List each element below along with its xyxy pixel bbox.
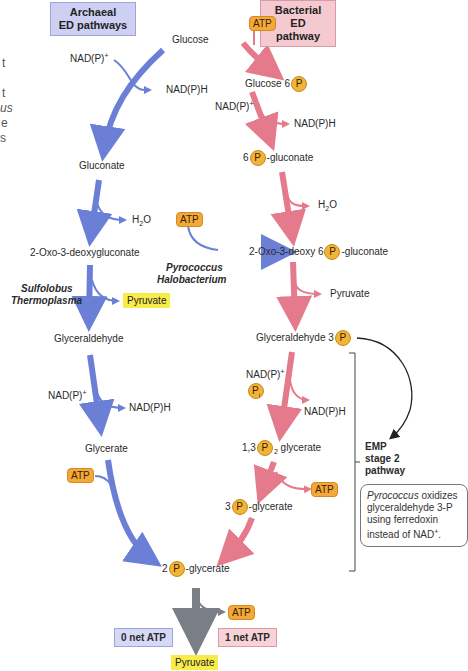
arrow-h2o-a (96, 200, 125, 220)
kdpg-label: 2-Oxo-3-deoxy 6P-gluconate (249, 244, 388, 260)
archaeal-header: Archaeal ED pathways (50, 2, 136, 36)
arrow-glycerate-2pg (108, 460, 152, 560)
glycerate-label: Glycerate (85, 443, 128, 454)
atp-in-bacterial: ATP (249, 16, 276, 31)
nadp-in-bacterial-1: NAD(P)+ (215, 100, 254, 112)
arrow-nadph-b2 (290, 380, 308, 400)
nadph-out-archaeal-2: NAD(P)H (129, 402, 171, 413)
phosphate-icon: P (324, 244, 340, 260)
atp-cross: ATP (176, 212, 203, 227)
arrow-gap-bpg (281, 352, 292, 430)
emp-bracket (349, 353, 355, 571)
arrow-glucose-g6p (243, 43, 275, 73)
net-atp-archaeal: 0 net ATP (114, 628, 173, 647)
2p-glycerate-label: 2P-glycerate (162, 561, 229, 577)
nadp-in-bacterial-2: NAD(P)+ (246, 368, 285, 380)
h2o-archaeal: H2O (132, 214, 151, 227)
arrow-glyceraldehyde-glycerate (90, 355, 100, 425)
arrow-emp (357, 338, 412, 437)
pyruvate-final: Pyruvate (171, 655, 218, 670)
arrow-oxo-glyceraldehyde (89, 265, 90, 320)
organism-pyrococcus: Pyrococcus (166, 262, 223, 273)
glucose-6p-label: Glucose 6P (245, 76, 308, 92)
pyrococcus-note: Pyrococcus oxidizes glyceraldehyde 3-P u… (360, 484, 468, 547)
arrow-6pg-kdpg (282, 172, 292, 235)
gluconate-label: Gluconate (79, 160, 125, 171)
organism-thermoplasma: Thermoplasma (11, 295, 82, 306)
phosphate-icon: P (250, 150, 266, 166)
pi-label: Pi (247, 383, 265, 399)
arrow-g6p-6pg (252, 92, 270, 140)
bacterial-header-label: Bacterial ED pathway (275, 4, 321, 42)
arrow-pyruvate-b (294, 280, 320, 294)
pyruvate-archaeal: Pyruvate (123, 293, 170, 308)
arrow-atp-cross (188, 226, 218, 250)
bpg-label: 1,3P2 glycerate (242, 440, 321, 456)
arrow-3pg-2pg (225, 518, 252, 558)
nadp-in-archaeal-1: NAD(P)+ (70, 52, 109, 64)
arrow-atp-out-b (276, 472, 310, 489)
atp-in-archaeal: ATP (67, 468, 94, 483)
3p-glycerate-label: 3P-glycerate (225, 499, 292, 515)
nadp-in-archaeal-2: NAD(P)+ (48, 389, 87, 401)
nadph-out-bacterial-1: NAD(P)H (294, 118, 336, 129)
oxo-deoxygluconate-label: 2-Oxo-3-deoxygluconate (30, 247, 140, 258)
phosphate-icon: P (169, 561, 185, 577)
arrow-glucose-gluconate (104, 50, 163, 150)
atp-out-common: ATP (228, 605, 255, 620)
net-atp-bacterial: 1 net ATP (218, 628, 277, 647)
emp-label: EMP stage 2 pathway (365, 441, 405, 477)
phosphate-icon: P (232, 499, 248, 515)
glyceraldehyde-label: Glyceraldehyde (54, 333, 123, 344)
nadph-out-archaeal-1: NAD(P)H (166, 84, 208, 95)
nadph-out-bacterial-2: NAD(P)H (304, 406, 346, 417)
phosphate-icon: P (291, 76, 307, 92)
arrow-bpg-3pg (262, 462, 274, 493)
arrow-atp-out-common (197, 598, 224, 612)
pyruvate-bacterial: Pyruvate (330, 288, 369, 299)
phosphate-icon: Pi (248, 383, 264, 399)
atp-out-bacterial: ATP (311, 482, 338, 497)
6p-gluconate-label: 6P-gluconate (243, 150, 313, 166)
phosphate-icon: P (257, 440, 273, 456)
organism-sulfolobus: Sulfolobus (21, 283, 73, 294)
archaeal-header-label: Archaeal ED pathways (59, 6, 127, 31)
arrow-pyruvate-a (92, 280, 118, 301)
glucose-label: Glucose (172, 34, 209, 45)
glyceraldehyde-3p-label: Glyceraldehyde 3P (256, 330, 352, 346)
arrow-kdpg-gap (293, 262, 295, 320)
h2o-bacterial: H2O (318, 199, 337, 212)
phosphate-icon: P (335, 330, 351, 346)
organism-halobacterium: Halobacterium (157, 274, 226, 285)
